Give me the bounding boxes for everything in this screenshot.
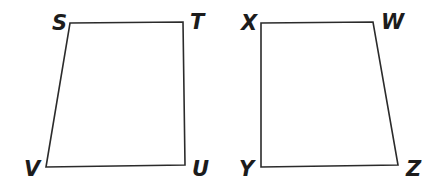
vertex-label-v: V [24, 157, 42, 181]
vertex-label-w: W [381, 10, 405, 34]
vertex-label-y: Y [239, 157, 256, 181]
geometry-figure: S T U V X W Z Y [0, 0, 442, 190]
quadrilateral-stuv-outline [46, 22, 185, 167]
quadrilateral-xwzy-outline [261, 22, 398, 167]
vertex-label-x: X [239, 11, 259, 35]
shape-quadrilateral-stuv: S T U V [24, 10, 209, 181]
vertex-label-z: Z [405, 157, 422, 181]
figure-canvas: S T U V X W Z Y [0, 0, 442, 190]
vertex-label-t: T [190, 10, 206, 34]
shape-quadrilateral-xwzy: X W Z Y [239, 10, 422, 181]
vertex-label-s: S [52, 11, 67, 35]
vertex-label-u: U [192, 157, 209, 181]
